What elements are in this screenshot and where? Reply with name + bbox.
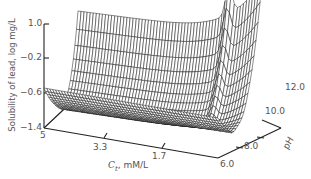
z-tick-4: −1.4 — [20, 123, 42, 132]
ph-tick-2: 8.0 — [244, 142, 258, 151]
ph-tick-3: 10.0 — [265, 107, 285, 116]
ph-tick-1: 6.0 — [220, 160, 234, 169]
x-axis-label: Ct, mM/L — [108, 160, 148, 173]
z-tick-2: −0.2 — [20, 53, 42, 62]
z-axis-label: Solubility of lead, log mg/L — [7, 15, 17, 135]
surface-mesh — [44, 0, 262, 133]
x-tick-1: 5 — [40, 131, 46, 140]
ph-tick-4: 12.0 — [285, 83, 305, 92]
back-base-edge — [262, 120, 281, 128]
x-tick-3: 1.7 — [152, 152, 166, 161]
z-tick-1: 1.0 — [28, 19, 42, 28]
x-axis-var: C — [108, 160, 115, 170]
front-base-edge — [44, 128, 218, 158]
x-axis-unit: , mM/L — [118, 160, 148, 170]
x-tick-2: 3.3 — [93, 143, 107, 152]
z-tick-3: −0.6 — [20, 88, 42, 97]
